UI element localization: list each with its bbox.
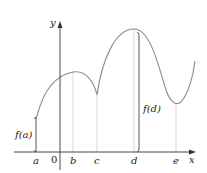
fa-annotation: f(a) (15, 130, 32, 140)
tick-label-b: b (70, 156, 76, 166)
origin-label: 0 (51, 155, 57, 165)
tick-label-c: c (94, 156, 100, 166)
fd-brace (137, 32, 139, 152)
graph-canvas (0, 0, 207, 173)
vertical-guides (73, 29, 176, 152)
tick-label-a: a (33, 156, 39, 166)
y-axis-arrow-icon (58, 21, 63, 28)
tick-label-d: d (131, 156, 137, 166)
x-axis-label: x (189, 155, 195, 165)
function-graph-figure: y x 0 a b c d e f(a) f(d) (0, 0, 207, 173)
tick-label-e: e (173, 156, 179, 166)
fd-annotation: f(d) (143, 104, 161, 114)
y-axis-label: y (50, 18, 56, 28)
